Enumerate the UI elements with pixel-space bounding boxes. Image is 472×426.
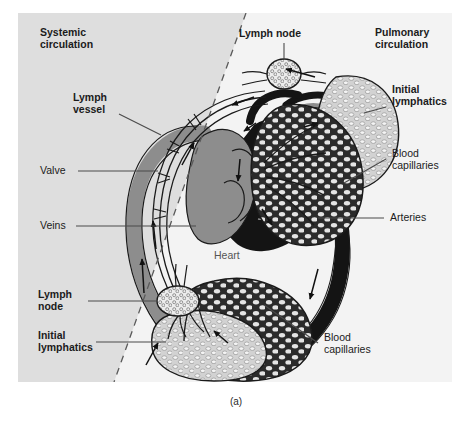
label-lymph-vessel: Lymph vessel <box>73 91 107 116</box>
label-initial-lymphatics-right: Initial lymphatics <box>392 83 447 108</box>
label-arteries: Arteries <box>390 211 426 223</box>
label-veins: Veins <box>40 219 66 231</box>
label-lymph-node-top: Lymph node <box>239 27 301 39</box>
label-lymph-node-left: Lymph node <box>38 288 72 313</box>
anatomical-figure: Systemic circulation Pulmonary circulati… <box>0 0 472 426</box>
diagram-panel: Systemic circulation Pulmonary circulati… <box>18 13 452 382</box>
label-pulmonary-circulation: Pulmonary circulation <box>375 26 429 51</box>
circulation-diagram-artwork <box>18 13 452 382</box>
label-heart: Heart <box>214 249 240 261</box>
label-blood-capillaries-right: Blood capillaries <box>392 147 439 172</box>
label-valve: Valve <box>40 164 66 176</box>
label-initial-lymphatics-left: Initial lymphatics <box>38 329 93 354</box>
figure-caption: (a) <box>0 396 472 407</box>
label-blood-capillaries-bottom: Blood capillaries <box>324 331 371 356</box>
label-systemic-circulation: Systemic circulation <box>40 26 93 51</box>
